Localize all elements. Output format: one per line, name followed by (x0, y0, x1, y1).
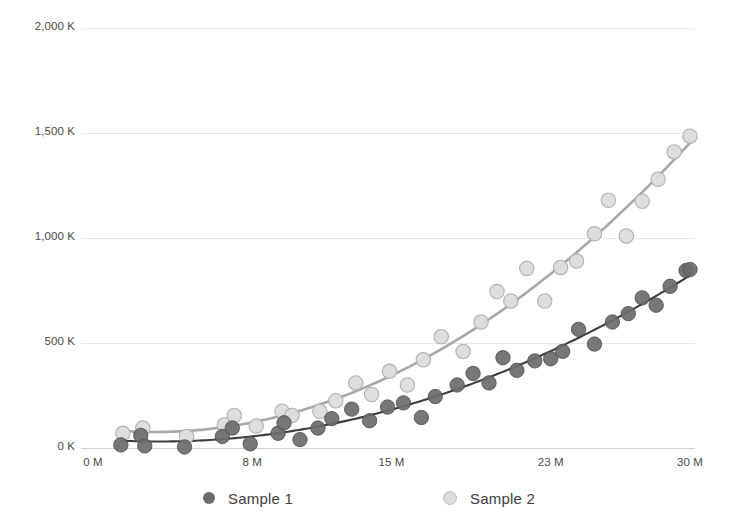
data-point (649, 298, 663, 312)
legend-label: Sample 2 (470, 490, 535, 507)
data-point (474, 315, 488, 329)
y-axis-tick-label: 0 K (57, 440, 75, 452)
data-point (456, 344, 470, 358)
y-axis-tick-label: 500 K (44, 335, 75, 347)
data-point (466, 366, 480, 380)
data-point (635, 194, 649, 208)
data-point (243, 437, 257, 451)
data-point (177, 440, 191, 454)
chart-legend: Sample 1 Sample 2 (0, 483, 738, 513)
data-point (683, 129, 697, 143)
x-axis-tick-label: 0 M (53, 456, 133, 468)
data-point (496, 351, 510, 365)
data-point (555, 344, 569, 358)
legend-item-sample-1[interactable]: Sample 1 (203, 490, 293, 507)
data-points (114, 129, 698, 454)
scatter-chart: 2,000 K1,500 K1,000 K500 K0 K 0 M8 M15 M… (0, 0, 738, 528)
x-axis-tick-label: 23 M (511, 456, 591, 468)
legend-swatch-icon (443, 491, 457, 505)
data-point (528, 354, 542, 368)
data-point (396, 396, 410, 410)
data-point (510, 363, 524, 377)
data-point (683, 262, 697, 276)
data-point (227, 408, 241, 422)
data-point (362, 414, 376, 428)
data-point (571, 322, 585, 336)
data-point (138, 439, 152, 453)
data-point (249, 419, 263, 433)
data-point (311, 421, 325, 435)
data-point (490, 284, 504, 298)
data-point (587, 227, 601, 241)
legend-swatch-icon (203, 492, 215, 504)
y-axis-tick-label: 1,000 K (35, 230, 75, 242)
x-axis-tick-label: 15 M (352, 456, 432, 468)
x-axis-tick-label: 8 M (212, 456, 292, 468)
data-point (414, 410, 428, 424)
y-axis-tick-label: 1,500 K (35, 125, 75, 137)
data-point (400, 378, 414, 392)
data-point (651, 172, 665, 186)
data-point (621, 306, 635, 320)
data-point (504, 294, 518, 308)
y-axis-tick-label: 2,000 K (35, 20, 75, 32)
data-point (348, 376, 362, 390)
data-point (619, 229, 633, 243)
data-point (416, 353, 430, 367)
data-point (450, 378, 464, 392)
data-point (293, 432, 307, 446)
legend-label: Sample 1 (228, 490, 293, 507)
data-point (667, 145, 681, 159)
data-point (520, 261, 534, 275)
data-point (277, 416, 291, 430)
data-point (382, 364, 396, 378)
trendline-sample-1 (121, 275, 690, 441)
data-point (569, 254, 583, 268)
plot-area (0, 0, 738, 528)
legend-item-sample-2[interactable]: Sample 2 (443, 490, 535, 507)
data-point (329, 394, 343, 408)
gridlines (81, 28, 695, 448)
data-point (225, 421, 239, 435)
data-point (587, 337, 601, 351)
data-point (325, 411, 339, 425)
data-point (663, 279, 677, 293)
data-point (428, 389, 442, 403)
data-point (601, 193, 615, 207)
data-point (380, 400, 394, 414)
data-point (345, 402, 359, 416)
data-point (538, 294, 552, 308)
x-axis-tick-label: 30 M (650, 456, 730, 468)
data-point (635, 291, 649, 305)
data-point (605, 315, 619, 329)
series-sample-1 (114, 262, 698, 454)
data-point (434, 330, 448, 344)
data-point (364, 387, 378, 401)
data-point (553, 260, 567, 274)
data-point (482, 376, 496, 390)
data-point (114, 438, 128, 452)
